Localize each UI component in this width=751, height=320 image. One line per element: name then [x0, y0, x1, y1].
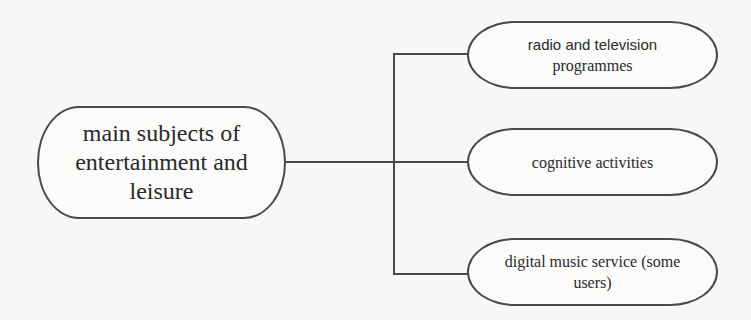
root-node-label: main subjects of entertainment and leisu…: [55, 119, 268, 206]
child-node-cognitive: cognitive activities: [467, 128, 718, 196]
child-node-radio-tv: radio and television programmes: [467, 21, 718, 89]
child-node-label: cognitive activities: [532, 152, 653, 173]
child-node-digital-music: digital music service (some users): [467, 238, 718, 306]
child-node-label-line1: digital music service (some: [505, 251, 681, 272]
root-connector: [286, 161, 395, 163]
root-node: main subjects of entertainment and leisu…: [37, 106, 286, 219]
trunk-connector: [393, 53, 395, 275]
child-node-label-line2: programmes: [528, 55, 657, 76]
branch-connector-1: [393, 53, 468, 55]
child-node-label-line2: users): [505, 272, 681, 293]
branch-connector-3: [393, 273, 468, 275]
branch-connector-2: [393, 161, 468, 163]
child-node-label-line1: radio and television: [528, 34, 657, 55]
